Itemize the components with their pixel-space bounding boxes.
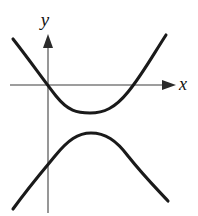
hyperbola-plot: y x <box>0 0 198 216</box>
plot-background <box>0 0 198 216</box>
figure-container: y x <box>0 0 198 216</box>
x-axis-label: x <box>178 74 187 94</box>
y-axis-label: y <box>39 9 50 30</box>
